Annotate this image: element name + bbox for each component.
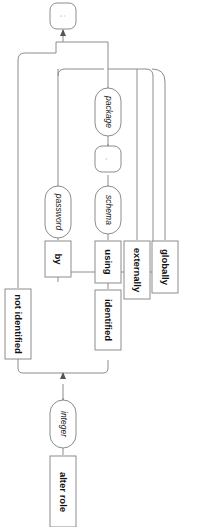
dot-separator-label: . bbox=[105, 158, 112, 160]
externally-label: externally bbox=[132, 248, 143, 293]
node-integer: integer bbox=[50, 400, 76, 448]
not-identified-label: not identified bbox=[13, 294, 24, 354]
using-label: using bbox=[103, 249, 114, 275]
node-package: package bbox=[95, 88, 121, 136]
identified-label: identified bbox=[103, 299, 114, 341]
globally-label: globally bbox=[160, 249, 171, 286]
alter-role-label: alter role bbox=[58, 472, 69, 512]
package-label: package bbox=[104, 95, 114, 128]
railroad-diagram: ; package . schema password by bbox=[0, 0, 202, 527]
node-alter-role: alter role bbox=[50, 456, 76, 527]
node-using: using bbox=[95, 241, 121, 283]
integer-label: integer bbox=[59, 411, 69, 438]
by-label: by bbox=[53, 253, 64, 265]
semicolon-label: ; bbox=[60, 15, 67, 17]
node-semicolon: ; bbox=[50, 3, 76, 29]
node-globally: globally bbox=[152, 241, 178, 293]
schema-label: schema bbox=[104, 195, 114, 225]
node-externally: externally bbox=[124, 241, 150, 299]
node-dot-separator: . bbox=[95, 146, 121, 172]
railroad-canvas: ; package . schema password by bbox=[0, 0, 202, 527]
password-label: password bbox=[54, 193, 64, 231]
node-identified: identified bbox=[95, 290, 121, 350]
node-schema: schema bbox=[95, 186, 121, 234]
node-not-identified: not identified bbox=[5, 289, 31, 359]
node-password: password bbox=[45, 186, 71, 238]
node-by: by bbox=[45, 241, 71, 277]
